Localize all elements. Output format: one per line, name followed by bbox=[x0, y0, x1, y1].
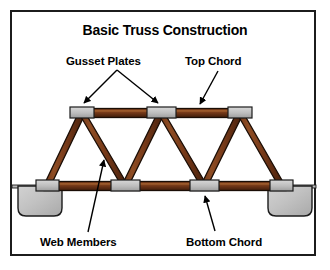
label-web-members: Web Members bbox=[40, 237, 117, 249]
bottom-chord-member bbox=[44, 182, 286, 191]
label-gusset-plates: Gusset Plates bbox=[66, 56, 141, 68]
leader-bottom-chord bbox=[205, 196, 215, 231]
diagram-canvas: Basic Truss Construction Gusset Plates T… bbox=[0, 0, 330, 270]
label-bottom-chord: Bottom Chord bbox=[186, 237, 262, 249]
truss-illustration bbox=[0, 0, 330, 270]
leader-web-members bbox=[88, 160, 104, 232]
leader-gusset-left bbox=[84, 70, 117, 103]
web-members-group bbox=[43, 111, 287, 188]
leader-top-chord bbox=[200, 71, 218, 104]
label-top-chord: Top Chord bbox=[185, 56, 241, 68]
page-title: Basic Truss Construction bbox=[0, 22, 330, 38]
leader-gusset-right bbox=[117, 70, 158, 103]
